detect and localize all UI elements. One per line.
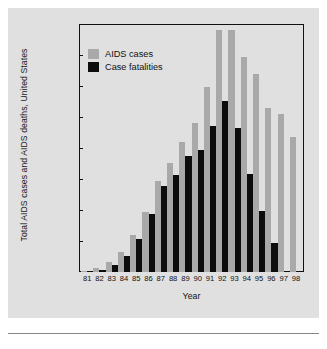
legend-item: AIDS cases: [88, 47, 163, 60]
bar-group: [192, 24, 204, 272]
x-tick-label: 88: [167, 274, 179, 283]
x-axis-tick-labels: 818283848586878889909192939495969798: [79, 274, 304, 283]
x-tick-label: 96: [265, 274, 277, 283]
bar-group: [216, 24, 228, 272]
x-tick-label: 82: [93, 274, 105, 283]
legend-swatch-cases: [88, 49, 99, 59]
bar-cases-98: [290, 137, 296, 272]
chart-legend: AIDS casesCase fatalities: [88, 47, 163, 73]
bar-group: [204, 24, 216, 272]
bar-cases-97: [278, 114, 284, 272]
y-axis-title: Total AIDS cases and AIDS deaths, United…: [19, 20, 29, 270]
legend-swatch-deaths: [88, 62, 99, 72]
x-axis-title: Year: [79, 291, 304, 301]
bar-group: [167, 24, 179, 272]
legend-label: AIDS cases: [105, 49, 153, 59]
bar-group: [253, 24, 265, 272]
x-tick-label: 98: [290, 274, 302, 283]
x-tick-label: 89: [179, 274, 191, 283]
figure-page: Total AIDS cases and AIDS deaths, United…: [0, 0, 327, 349]
x-tick-label: 94: [241, 274, 253, 283]
x-tick-label: 95: [253, 274, 265, 283]
x-tick-label: 97: [278, 274, 290, 283]
x-tick-label: 90: [192, 274, 204, 283]
x-tick-label: 81: [81, 274, 93, 283]
legend-label: Case fatalities: [105, 62, 163, 72]
legend-item: Case fatalities: [88, 60, 163, 73]
bar-group: [265, 24, 277, 272]
x-tick-label: 93: [228, 274, 240, 283]
x-tick-label: 92: [216, 274, 228, 283]
bottom-divider: [8, 333, 319, 334]
bar-group: [241, 24, 253, 272]
bar-group: [228, 24, 240, 272]
x-tick-label: 87: [155, 274, 167, 283]
x-tick-label: 86: [142, 274, 154, 283]
bar-group: [278, 24, 290, 272]
x-tick-label: 85: [130, 274, 142, 283]
bar-group: [179, 24, 191, 272]
x-tick-label: 84: [118, 274, 130, 283]
x-tick-label: 83: [106, 274, 118, 283]
x-tick-label: 91: [204, 274, 216, 283]
bar-group: [290, 24, 302, 272]
